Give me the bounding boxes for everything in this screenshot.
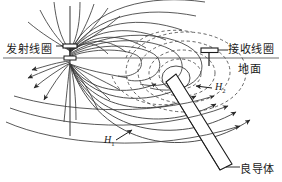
transmitter-coil-base	[64, 56, 76, 60]
primary-field-subscript: 1	[111, 140, 114, 147]
secondary-field-subscript: 2	[222, 87, 225, 94]
h2-pointer	[196, 86, 212, 88]
ground-surface-label: 地面	[238, 60, 261, 76]
h2-arrow	[196, 86, 212, 88]
diagram-svg	[0, 0, 282, 182]
transmitter-coil-label: 发射线圈	[6, 40, 52, 56]
transmitter-coil-bar	[63, 44, 77, 48]
receiver-coil-bar	[201, 48, 218, 53]
receiver-coil-symbol	[201, 48, 218, 66]
diagram-canvas: 发射线圈 接收线圈 地面 良导体 H2 H1	[0, 0, 282, 182]
conductor-label: 良导体	[240, 160, 275, 176]
primary-field-label: H1	[104, 134, 114, 147]
secondary-field-label: H2	[215, 81, 225, 94]
h1-pointer	[116, 130, 132, 140]
receiver-coil-label: 接收线圈	[228, 40, 274, 56]
h1-arrow	[116, 130, 132, 140]
primary-field-lines-lower	[28, 61, 128, 122]
conductor-edge	[166, 82, 220, 170]
